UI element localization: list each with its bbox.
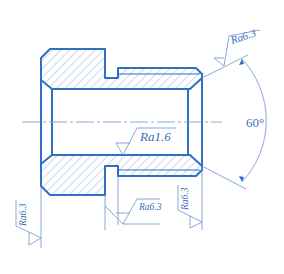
roughness-symbol-groove: Ra6.3 — [105, 199, 162, 224]
roughness-label-bore: Ra1.6 — [139, 129, 171, 144]
roughness-symbol-right-face: Ra6.3 — [178, 185, 202, 228]
angle-label: 60° — [246, 115, 264, 130]
roughness-label-top-right: Ra6.3 — [228, 26, 258, 46]
roughness-symbol-top-right: Ra6.3 — [214, 26, 260, 66]
roughness-symbol-bore: Ra1.6 — [116, 128, 176, 155]
top-wall-section — [41, 49, 202, 89]
technical-drawing: 60° Ra6.3 Ra1.6 Ra6.3 Ra6.3 Ra6.3 — [0, 0, 284, 274]
roughness-label-left-face: Ra6.3 — [18, 203, 28, 227]
roughness-label-right-face: Ra6.3 — [180, 187, 190, 211]
angle-extension-bottom — [202, 166, 246, 189]
roughness-symbol-left-face: Ra6.3 — [16, 200, 41, 245]
roughness-label-groove: Ra6.3 — [138, 202, 162, 212]
